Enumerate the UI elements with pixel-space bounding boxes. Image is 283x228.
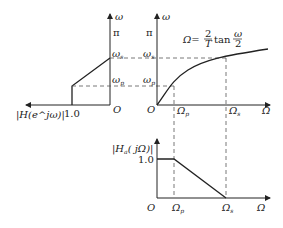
center-panel: ω π ωs ωp O Ωp Ωs Ω Ω= 2 T tan ω 2: [143, 11, 270, 118]
bottom-Op-tick: Ωp: [171, 202, 184, 215]
left-wp-tick: ωp: [112, 74, 124, 87]
center-omega-label: ω: [162, 11, 170, 22]
formula-arg-den: 2: [235, 38, 241, 49]
left-pi-tick: π: [113, 27, 120, 38]
formula-fn: tan: [214, 34, 231, 45]
bilinear-transform-diagram: ω π ωs ωp O 1.0 |H(e^jω)| ω π ωs ωp O Ωp…: [0, 0, 283, 228]
formula-den: T: [205, 38, 213, 49]
left-origin-label: O: [113, 104, 121, 115]
left-one-tick: 1.0: [64, 108, 80, 119]
bilinear-formula: Ω= 2 T tan ω 2: [182, 28, 242, 49]
center-wp-tick: ωp: [143, 74, 155, 87]
analog-magnitude-curve: [157, 159, 226, 198]
center-Os-tick: Ωs: [228, 105, 240, 117]
center-ws-tick: ωs: [143, 48, 154, 60]
formula-lhs: Ω=: [182, 34, 200, 45]
left-omega-label: ω: [115, 11, 123, 22]
left-x-axis-label: |H(e^jω)|: [16, 109, 65, 121]
bottom-Os-tick: Ωs: [221, 202, 233, 214]
bottom-origin-label: O: [147, 202, 155, 213]
bottom-one-tick: 1.0: [138, 154, 154, 165]
left-magnitude-curve: [72, 58, 110, 105]
left-panel: ω π ωs ωp O 1.0 |H(e^jω)|: [16, 11, 124, 121]
center-x-axis-label: Ω: [261, 105, 270, 116]
bottom-panel: |Ha( jΩ)| 1.0 O Ωp Ωs Ω: [112, 139, 270, 215]
center-pi-tick: π: [146, 27, 153, 38]
center-Op-tick: Ωp: [176, 105, 189, 118]
center-origin-label: O: [147, 104, 155, 115]
bottom-x-axis-label: Ω: [256, 202, 265, 213]
